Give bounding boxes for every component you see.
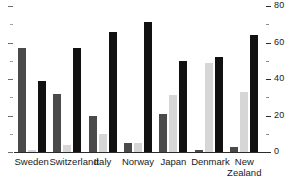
bar (250, 35, 258, 152)
category-label: Italy (85, 156, 120, 167)
axis-tick-major (266, 79, 271, 80)
bar-group (49, 6, 84, 152)
axis-tick-label: 80 (274, 1, 284, 10)
axis-tick-major (266, 6, 271, 7)
bar (73, 48, 81, 152)
bar (124, 143, 132, 152)
left-axis-tick-major (8, 152, 13, 153)
bar (109, 32, 117, 152)
axis-tick-label: 40 (274, 74, 284, 83)
category-label: Switzerland (49, 156, 84, 167)
bar (169, 95, 177, 152)
left-axis-ticks (0, 0, 14, 179)
axis-tick-minor (266, 24, 269, 25)
left-axis-tick-major (8, 43, 13, 44)
bar (144, 22, 152, 152)
bar (89, 116, 97, 153)
axis-tick-major (266, 152, 271, 153)
bar-group (14, 6, 49, 152)
bar (38, 81, 46, 152)
bar-chart: 020406080 SwedenSwitzerlandItalyNorwayJa… (0, 0, 305, 179)
category-label: Norway (120, 156, 155, 167)
bar (205, 63, 213, 152)
bar-group (227, 6, 262, 152)
bar-group (156, 6, 191, 152)
axis-tick-major (266, 116, 271, 117)
bar (159, 114, 167, 152)
baseline-axis (14, 152, 266, 153)
bar (63, 145, 71, 152)
axis-tick-label: 20 (274, 111, 284, 120)
category-axis-labels: SwedenSwitzerlandItalyNorwayJapanDenmark… (14, 154, 266, 179)
left-axis-tick-major (8, 116, 13, 117)
bar (53, 94, 61, 152)
axis-tick-label: 60 (274, 38, 284, 47)
axis-tick-minor (266, 61, 269, 62)
bar (240, 92, 248, 152)
left-axis-tick-minor (10, 24, 13, 25)
category-label: Denmark (191, 156, 226, 167)
bar-group (191, 6, 226, 152)
bar (179, 61, 187, 152)
left-axis-tick-minor (10, 61, 13, 62)
left-axis-tick-minor (10, 97, 13, 98)
bar (134, 143, 142, 152)
axis-tick-minor (266, 134, 269, 135)
right-value-axis: 020406080 (266, 0, 305, 179)
left-axis-tick-major (8, 79, 13, 80)
bar-group (85, 6, 120, 152)
category-label: Japan (156, 156, 191, 167)
bar-group (120, 6, 155, 152)
plot-area (14, 6, 262, 152)
bar (18, 48, 26, 152)
category-label: NewZealand (227, 156, 262, 178)
axis-tick-major (266, 43, 271, 44)
bar (99, 134, 107, 152)
axis-tick-label: 0 (274, 147, 279, 156)
category-label: Sweden (14, 156, 49, 167)
left-axis-tick-minor (10, 134, 13, 135)
axis-tick-minor (266, 97, 269, 98)
left-axis-tick-major (8, 6, 13, 7)
bar (215, 57, 223, 152)
